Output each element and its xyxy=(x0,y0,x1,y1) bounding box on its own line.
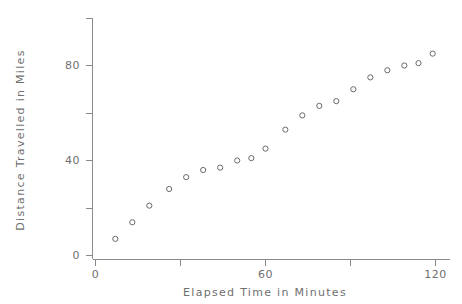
data-point xyxy=(263,146,268,151)
y-axis-title: Distance Travelled in Miles xyxy=(14,49,27,230)
data-point xyxy=(184,175,189,180)
data-point xyxy=(402,63,407,68)
chart-canvas: 80 40 0 0 60 120 Elapsed Time in Minutes… xyxy=(0,0,462,304)
y-tick-label-80: 80 xyxy=(65,59,80,72)
scatter-plot-figure: 80 40 0 0 60 120 Elapsed Time in Minutes… xyxy=(0,0,462,304)
data-point xyxy=(235,158,240,163)
data-point xyxy=(300,113,305,118)
x-tick-label-0: 0 xyxy=(92,268,100,281)
x-tick-label-120: 120 xyxy=(424,268,447,281)
data-point xyxy=(167,186,172,191)
x-tick-label-60: 60 xyxy=(258,268,273,281)
data-point xyxy=(147,203,152,208)
data-point xyxy=(249,156,254,161)
data-point xyxy=(130,220,135,225)
y-tick-label-40: 40 xyxy=(65,154,80,167)
data-point xyxy=(201,167,206,172)
data-point xyxy=(430,51,435,56)
data-point-layer xyxy=(113,51,436,241)
x-axis-title: Elapsed Time in Minutes xyxy=(183,286,347,299)
y-tick-label-0: 0 xyxy=(73,249,81,262)
data-point xyxy=(283,127,288,132)
data-point xyxy=(385,68,390,73)
data-point xyxy=(334,99,339,104)
data-point xyxy=(317,103,322,108)
x-axis: 0 60 120 xyxy=(92,260,450,282)
data-point xyxy=(113,236,118,241)
data-point xyxy=(218,165,223,170)
data-point xyxy=(368,75,373,80)
data-point xyxy=(416,61,421,66)
y-axis: 80 40 0 xyxy=(65,18,93,262)
data-point xyxy=(351,87,356,92)
